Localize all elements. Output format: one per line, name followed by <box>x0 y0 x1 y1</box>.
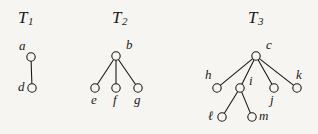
tree-node-i[interactable] <box>236 84 244 92</box>
tree-edges-layer <box>0 0 318 134</box>
tree-edge <box>224 92 238 114</box>
tree-title-letter: T <box>248 8 257 27</box>
tree-title-T2: T2 <box>112 8 127 28</box>
node-label-a: a <box>19 39 26 52</box>
node-label-l: ℓ <box>208 109 213 122</box>
tree-figure: adT1befgT2chijkℓmT3 <box>0 0 318 134</box>
tree-node-c[interactable] <box>252 52 260 60</box>
tree-edge <box>118 59 135 84</box>
tree-title-subscript: 3 <box>258 15 264 27</box>
tree-title-letter: T <box>112 8 121 27</box>
node-label-b: b <box>126 38 133 51</box>
node-label-h: h <box>205 68 212 81</box>
tree-title-subscript: 2 <box>122 15 128 27</box>
tree-edge <box>242 92 251 113</box>
node-label-g: g <box>134 93 141 106</box>
tree-node-b[interactable] <box>112 52 120 60</box>
tree-edge <box>31 61 32 84</box>
node-label-c: c <box>266 38 272 51</box>
node-label-e: e <box>91 93 97 106</box>
tree-node-j[interactable] <box>270 84 278 92</box>
tree-title-T1: T1 <box>18 8 33 28</box>
tree-title-letter: T <box>18 8 27 27</box>
tree-node-a[interactable] <box>27 53 35 61</box>
tree-node-l[interactable] <box>218 113 226 121</box>
node-label-i: i <box>249 74 253 87</box>
node-label-m: m <box>259 109 268 122</box>
tree-node-f[interactable] <box>112 84 120 92</box>
node-label-k: k <box>296 68 302 81</box>
tree-title-T3: T3 <box>248 8 263 28</box>
tree-edge <box>97 60 113 85</box>
tree-node-d[interactable] <box>28 84 36 92</box>
node-label-f: f <box>113 93 117 106</box>
tree-node-e[interactable] <box>91 84 99 92</box>
node-label-j: j <box>270 93 274 106</box>
tree-node-h[interactable] <box>213 84 221 92</box>
tree-node-m[interactable] <box>248 113 256 121</box>
node-label-d: d <box>18 80 25 93</box>
tree-node-k[interactable] <box>293 84 301 92</box>
tree-node-g[interactable] <box>134 84 142 92</box>
tree-title-subscript: 1 <box>28 15 34 27</box>
